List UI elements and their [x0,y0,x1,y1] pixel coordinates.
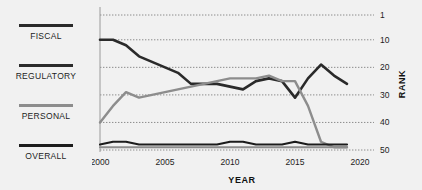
legend-item-regulatory: REGULATORY [0,64,92,81]
legend-item-fiscal: FISCAL [0,24,92,41]
series-lines [100,40,347,147]
legend-label-fiscal: FISCAL [0,31,92,41]
legend-label-personal: PERSONAL [0,111,92,121]
y-axis-title: RANK [397,70,407,98]
gridlines [100,15,374,150]
chart-canvas: 11020304050 20002005201020152020 YEAR RA… [92,0,422,190]
y-tick-label: 20 [380,62,390,72]
y-tick-label: 30 [380,90,390,100]
x-axis-title: YEAR [228,175,255,185]
legend-swatch-overall [19,144,73,147]
series-overall [100,142,347,145]
y-tick-label: 1 [380,10,385,20]
x-tick-label: 2000 [92,157,110,167]
legend-swatch-fiscal [19,24,73,27]
legend-label-overall: OVERALL [0,151,92,161]
legend-swatch-personal [19,104,73,107]
legend-item-personal: PERSONAL [0,104,92,121]
x-tick-label: 2010 [221,157,240,167]
legend-label-regulatory: REGULATORY [0,71,92,81]
y-tick-label: 50 [380,145,390,155]
y-tick-label: 10 [380,35,390,45]
legend-item-overall: OVERALL [0,144,92,161]
x-tick-label: 2015 [286,157,305,167]
chart-figure: FISCAL REGULATORY PERSONAL OVERALL 11020… [0,0,422,190]
series-fiscal [100,40,347,98]
y-axis-ticks: 11020304050 [380,10,390,155]
x-tick-label: 2020 [351,157,370,167]
x-axis-ticks: 20002005201020152020 [92,157,370,167]
chart-legend: FISCAL REGULATORY PERSONAL OVERALL [0,0,92,190]
plot-area: 11020304050 20002005201020152020 YEAR RA… [92,0,422,190]
x-tick-label: 2005 [156,157,175,167]
y-tick-label: 40 [380,117,390,127]
legend-swatch-regulatory [19,64,73,67]
